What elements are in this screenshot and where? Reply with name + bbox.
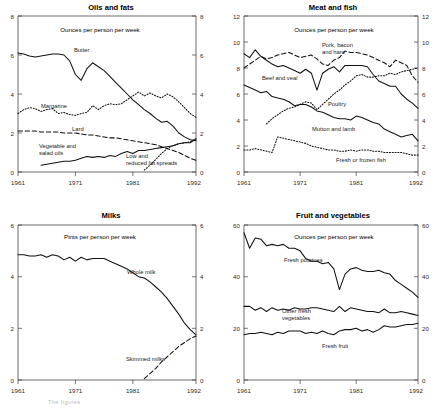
- y-tick-label: 40: [233, 273, 240, 280]
- y-tick-label-right: 40: [422, 273, 429, 280]
- series-label-other-fresh-veg-line2: vegetables: [282, 315, 310, 321]
- panel-subtitle: Ounces per person per week: [294, 26, 374, 33]
- x-tickmarks: [18, 172, 196, 176]
- x-tick-label: 1961: [237, 387, 251, 394]
- x-tick-label: 1961: [11, 387, 25, 394]
- y-tick-label: 0: [11, 169, 15, 176]
- series-label-butter: Butter: [74, 47, 90, 53]
- x-tick-label: 1992: [187, 179, 201, 186]
- series-label-margarine: Margarine: [41, 103, 67, 109]
- y-tick-label: 6: [237, 91, 241, 98]
- plot-frame: [244, 16, 418, 172]
- y-tick-label-right: 8: [422, 65, 426, 72]
- y-tick-label-right: 8: [200, 13, 204, 20]
- series-label-mutton-and-lamb: Mutton and lamb: [312, 126, 355, 132]
- x-tick-label: 1971: [293, 387, 307, 394]
- series-label-low-fat-spreads-line2: reduced fat spreads: [126, 160, 177, 166]
- chart-svg-fruit-and-vegetables: Fruit and vegetables Ounces per person p…: [222, 206, 444, 412]
- y-tick-label-right: 4: [200, 273, 204, 280]
- four-panel-chart-figure: Oils and fats Ounces per person per week…: [0, 0, 444, 412]
- x-tick-label: 1992: [409, 387, 423, 394]
- x-tickmarks: [244, 172, 418, 176]
- y-tick-label-right: 2: [422, 143, 426, 150]
- series-label-fresh-fruit: Fresh fruit: [322, 343, 348, 349]
- y-tickmarks: [244, 225, 418, 380]
- panel-title: Oils and fats: [88, 3, 134, 12]
- y-tick-label-right: 4: [422, 117, 426, 124]
- y-tick-label: 2: [11, 130, 15, 137]
- chart-svg-milks: Milks Pints per person per week 0 2 4 6 …: [0, 206, 222, 412]
- figure-caption: The figures: [48, 399, 228, 410]
- y-tick-label-right: 2: [200, 130, 204, 137]
- x-tick-label: 1961: [237, 179, 251, 186]
- series-label-low-fat-spreads-line1: Low and: [126, 153, 148, 159]
- plot-frame: [18, 225, 196, 380]
- y-tick-label: 10: [233, 39, 240, 46]
- panel-subtitle: Pints per person per week: [64, 233, 137, 240]
- series-label-poultry: Poultry: [328, 101, 346, 107]
- y-tickmarks: [18, 225, 196, 380]
- chart-svg-oils-and-fats: Oils and fats Ounces per person per week…: [0, 0, 222, 206]
- y-tick-label-right: 4: [200, 91, 204, 98]
- y-tick-label-right: 0: [422, 377, 426, 384]
- y-tick-label-right: 0: [200, 169, 204, 176]
- y-tick-label: 4: [11, 273, 15, 280]
- y-tick-label: 60: [233, 222, 240, 229]
- y-tick-label: 8: [237, 65, 241, 72]
- panel-subtitle: Ounces per person per week: [60, 26, 140, 33]
- x-tick-label: 1961: [11, 179, 25, 186]
- y-tick-label-right: 0: [200, 377, 204, 384]
- y-tick-label: 4: [11, 91, 15, 98]
- panel-oils-and-fats: Oils and fats Ounces per person per week…: [0, 0, 222, 206]
- x-tick-label: 1992: [187, 387, 201, 394]
- panel-title: Meat and fish: [309, 3, 358, 12]
- chart-svg-meat-and-fish: Meat and fish Ounces per person per week…: [222, 0, 444, 206]
- y-tick-label: 0: [237, 169, 241, 176]
- y-tick-label: 6: [11, 222, 15, 229]
- y-tick-label-right: 12: [422, 13, 429, 20]
- y-tick-label: 4: [237, 117, 241, 124]
- y-tick-label-right: 20: [422, 325, 429, 332]
- y-tickmarks: [244, 16, 418, 172]
- panel-subtitle: Ounces per person per week: [294, 233, 374, 240]
- x-tickmarks: [18, 380, 196, 384]
- series-label-pork-line1: Pork, bacon: [322, 42, 353, 48]
- series-label-lard: Lard: [72, 126, 84, 132]
- series-label-fresh-or-frozen-fish: Fresh or frozen fish: [336, 157, 386, 163]
- panel-title: Milks: [102, 211, 121, 220]
- y-tick-label: 2: [11, 325, 15, 332]
- panel-title: Fruit and vegetables: [296, 211, 370, 220]
- y-tick-label: 20: [233, 325, 240, 332]
- y-tick-label-right: 2: [200, 325, 204, 332]
- plot-frame: [244, 225, 418, 380]
- y-tick-label: 0: [237, 377, 241, 384]
- panel-milks: Milks Pints per person per week 0 2 4 6 …: [0, 206, 222, 412]
- x-tick-label: 1971: [69, 387, 83, 394]
- panel-fruit-and-vegetables: Fruit and vegetables Ounces per person p…: [222, 206, 444, 412]
- x-tickmarks: [244, 380, 418, 384]
- x-tick-label: 1981: [126, 179, 140, 186]
- series-label-other-fresh-veg-line1: Other fresh: [282, 308, 311, 314]
- series-label-fresh-potatoes: Fresh potatoes: [284, 257, 323, 263]
- series-lines: [244, 233, 418, 335]
- series-label-vegetable-oils-line2: salad oils: [39, 150, 63, 156]
- panel-meat-and-fish: Meat and fish Ounces per person per week…: [222, 0, 444, 206]
- y-tick-label: 0: [11, 377, 15, 384]
- y-tick-label-right: 6: [422, 91, 426, 98]
- y-tick-label-right: 60: [422, 222, 429, 229]
- series-label-skimmed-milks: Skimmed milks: [126, 356, 165, 362]
- series-label-whole-milk: Whole milk: [127, 269, 155, 275]
- series-lines: [18, 255, 196, 379]
- y-tick-label-right: 10: [422, 39, 429, 46]
- series-label-vegetable-oils-line1: Vegetable and: [39, 143, 76, 149]
- x-tick-label: 1971: [293, 179, 307, 186]
- y-tick-label: 2: [237, 143, 241, 150]
- x-tick-label: 1992: [409, 179, 423, 186]
- x-tick-label: 1971: [69, 179, 83, 186]
- y-tick-label-right: 0: [422, 169, 426, 176]
- x-tick-label: 1981: [126, 387, 140, 394]
- x-tick-label: 1981: [349, 387, 363, 394]
- series-label-pork-line2: and ham: [322, 49, 345, 55]
- y-tick-label-right: 6: [200, 52, 204, 59]
- y-tick-label: 12: [233, 13, 240, 20]
